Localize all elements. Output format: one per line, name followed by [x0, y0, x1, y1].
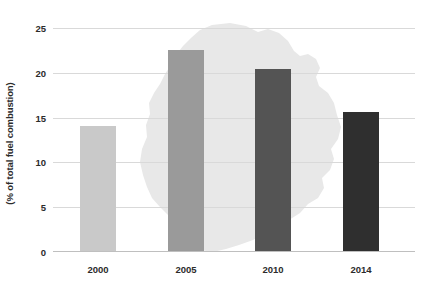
plot-area: 25 20 15 10 5 0 2000 2005 2010 2014 [53, 28, 415, 252]
bar-chart-figure: (% of total fuel combustion) 25 20 15 10… [0, 0, 423, 287]
bar-2000 [80, 126, 116, 251]
x-axis-line [53, 251, 415, 252]
x-tick-label-2014: 2014 [350, 264, 371, 275]
bar-2005 [168, 50, 204, 251]
gridline-25 [53, 28, 415, 29]
y-tick-label-20: 20 [35, 67, 46, 78]
y-tick-label-15: 15 [35, 112, 46, 123]
y-tick-label-25: 25 [35, 23, 46, 34]
x-tick-label-2010: 2010 [262, 264, 283, 275]
y-tick-label-0: 0 [41, 247, 46, 258]
y-tick-label-5: 5 [41, 202, 46, 213]
bar-2010 [255, 69, 291, 251]
y-tick-label-10: 10 [35, 157, 46, 168]
x-tick-label-2000: 2000 [87, 264, 108, 275]
x-tick-label-2005: 2005 [175, 264, 196, 275]
bar-2014 [343, 112, 379, 251]
y-axis-title: (% of total fuel combustion) [0, 0, 18, 287]
gridline-20 [53, 73, 415, 74]
